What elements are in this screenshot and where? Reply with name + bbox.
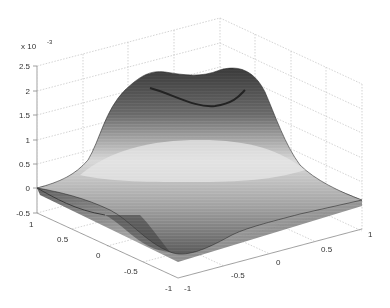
- y-tick: -1: [165, 284, 173, 293]
- x-tick: -1: [184, 284, 192, 293]
- z-tick: 0: [26, 184, 31, 193]
- z-tick: 2: [26, 87, 31, 96]
- surface-mesh: [37, 60, 362, 280]
- z-multiplier: x 10: [21, 42, 37, 51]
- y-tick: 0: [96, 251, 101, 260]
- z-tick: 0.5: [19, 160, 31, 169]
- z-exponent: -3: [47, 39, 53, 45]
- z-tick: 1: [26, 136, 31, 145]
- x-tick: 0: [276, 258, 281, 267]
- z-tick: -0.5: [16, 209, 30, 218]
- z-tick: 2.5: [19, 62, 31, 71]
- x-tick: 1: [368, 230, 373, 239]
- x-tick: 0.5: [321, 245, 333, 254]
- y-tick: -0.5: [124, 267, 138, 276]
- z-tick: 1.5: [19, 111, 31, 120]
- y-tick: 1: [29, 220, 34, 229]
- y-tick: 0.5: [57, 235, 69, 244]
- surface-plot: x 10 -3 2.5 2 1.5 1 0.5 0 -0.5 1 0.5 0 -…: [0, 0, 390, 308]
- x-tick: -0.5: [231, 271, 245, 280]
